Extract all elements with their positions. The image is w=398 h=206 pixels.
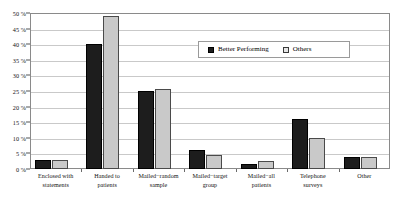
bar-group: [236, 13, 287, 169]
bar-better-performing: [292, 119, 308, 169]
bar-better-performing: [241, 164, 257, 169]
bar-better-performing: [138, 91, 154, 169]
y-axis-tick-label: 10 %: [13, 134, 26, 141]
x-axis-category-label: Telephonesurveys: [287, 172, 338, 189]
bar-others: [206, 155, 222, 169]
bar-chart: 0 %5 %10 %15 %20 %25 %30 %35 %40 %45 %50…: [0, 0, 398, 206]
x-axis: Enclosed withstatementsHanded topatients…: [30, 172, 390, 204]
legend-label: Better Performing: [218, 46, 269, 53]
bar-others: [52, 160, 68, 169]
y-axis-tick-mark: [26, 59, 30, 60]
x-axis-category-label: Mailed−allpatients: [236, 172, 287, 189]
legend-swatch-light: [283, 47, 289, 53]
bar-better-performing: [35, 160, 51, 169]
y-axis-tick-label: 35 %: [13, 56, 26, 63]
bar-others: [361, 157, 377, 169]
y-axis-tick-mark: [26, 75, 30, 76]
x-axis-label-line: patients: [236, 181, 287, 190]
y-axis: 0 %5 %10 %15 %20 %25 %30 %35 %40 %45 %50…: [0, 0, 30, 206]
y-axis-tick-mark: [26, 28, 30, 29]
legend-label: Others: [293, 46, 312, 53]
y-axis-tick-label: 15 %: [13, 119, 26, 126]
bar-group: [81, 13, 132, 169]
x-axis-category-label: Enclosed withstatements: [30, 172, 81, 189]
x-axis-label-line: surveys: [287, 181, 338, 190]
y-axis-tick-label: 25 %: [13, 88, 26, 95]
legend-entry: Better Performing: [208, 46, 269, 53]
x-axis-tick-mark: [287, 169, 288, 172]
x-axis-label-line: patients: [81, 181, 132, 190]
x-axis-tick-mark: [339, 169, 340, 172]
bar-group: [30, 13, 81, 169]
x-axis-label-line: group: [184, 181, 235, 190]
x-axis-label-line: statements: [30, 181, 81, 190]
x-axis-label-line: Mailed−random: [133, 172, 184, 181]
legend-entry: Others: [283, 46, 312, 53]
x-axis-label-line: Mailed−target: [184, 172, 235, 181]
chart-legend: Better PerformingOthers: [198, 41, 350, 58]
y-axis-tick-mark: [26, 106, 30, 107]
bar-others: [155, 89, 171, 169]
y-axis-tick-label: 0 %: [16, 166, 26, 173]
y-axis-tick-label: 30 %: [13, 72, 26, 79]
bars-layer: [30, 13, 390, 169]
x-axis-label-line: Mailed−all: [236, 172, 287, 181]
y-axis-tick-label: 50 %: [13, 10, 26, 17]
bar-better-performing: [189, 150, 205, 169]
bar-others: [309, 138, 325, 169]
y-axis-tick-label: 40 %: [13, 41, 26, 48]
x-axis-label-line: Other: [339, 172, 390, 181]
y-axis-tick-mark: [26, 91, 30, 92]
x-axis-tick-mark: [81, 169, 82, 172]
x-axis-tick-mark: [133, 169, 134, 172]
y-axis-tick-label: 5 %: [16, 150, 26, 157]
bar-group: [287, 13, 338, 169]
bar-group: [339, 13, 390, 169]
bar-better-performing: [86, 44, 102, 169]
x-axis-category-label: Mailed−targetgroup: [184, 172, 235, 189]
bar-others: [103, 16, 119, 169]
bar-group: [184, 13, 235, 169]
y-axis-tick-label: 20 %: [13, 103, 26, 110]
x-axis-tick-mark: [236, 169, 237, 172]
y-axis-tick-mark: [26, 44, 30, 45]
y-axis-tick-mark: [26, 169, 30, 170]
y-axis-tick-label: 45 %: [13, 25, 26, 32]
x-axis-label-line: Telephone: [287, 172, 338, 181]
x-axis-category-label: Other: [339, 172, 390, 181]
bar-others: [258, 161, 274, 169]
y-axis-tick-mark: [26, 137, 30, 138]
x-axis-category-label: Handed topatients: [81, 172, 132, 189]
y-axis-tick-mark: [26, 153, 30, 154]
bar-better-performing: [344, 157, 360, 169]
x-axis-label-line: Handed to: [81, 172, 132, 181]
x-axis-category-label: Mailed−randomsample: [133, 172, 184, 189]
y-axis-tick-mark: [26, 122, 30, 123]
x-axis-label-line: sample: [133, 181, 184, 190]
bar-group: [133, 13, 184, 169]
legend-swatch-dark: [208, 47, 214, 53]
x-axis-tick-mark: [184, 169, 185, 172]
y-axis-tick-mark: [26, 13, 30, 14]
x-axis-label-line: Enclosed with: [30, 172, 81, 181]
